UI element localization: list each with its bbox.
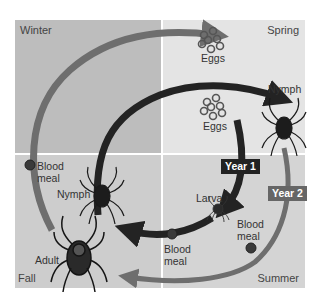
- year2-arc-right: [128, 148, 288, 281]
- label-blood-meal-winter: Blood meal: [37, 160, 64, 184]
- year2-badge: Year 2: [268, 186, 307, 201]
- blood-meal-dot-summer-outer: [246, 243, 256, 253]
- year1-badge: Year 1: [221, 159, 260, 174]
- blood-meal-dot-winter: [25, 160, 35, 170]
- year2-arc-left: [34, 33, 215, 230]
- label-adult: Adult: [35, 254, 59, 266]
- label-blood-meal-summer-outer: Blood meal: [237, 218, 264, 242]
- label-larva: Larva: [196, 192, 222, 204]
- label-nymph-fall: Nymph: [57, 188, 90, 200]
- label-eggs-top: Eggs: [201, 52, 225, 64]
- year1-arc-top: [97, 86, 280, 215]
- eggs-icon-inner: [201, 95, 226, 120]
- label-blood-meal-summer-inner: Blood meal: [164, 243, 191, 267]
- label-eggs-inner: Eggs: [203, 120, 227, 132]
- label-nymph-spring: Nymph: [268, 83, 301, 95]
- adult-tick-icon: [51, 216, 107, 292]
- nymph-tick-icon-spring: [262, 98, 306, 156]
- blood-meal-dot-summer-inner: [167, 229, 177, 239]
